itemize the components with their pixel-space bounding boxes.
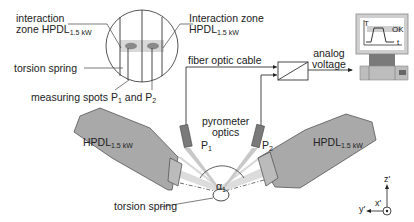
label-fiber-optic-cable: fiber optic cable — [188, 55, 262, 66]
label-pyrometer-optics: pyrometer optics — [202, 116, 249, 138]
label-angle-alpha: α1 — [216, 181, 226, 195]
magnified-inset — [106, 10, 178, 82]
subscript: 2 — [152, 97, 156, 104]
text: optics — [212, 126, 239, 138]
label-interaction-zone-left: interaction zone HPDL1.5 kW — [16, 13, 92, 38]
converter-box — [278, 62, 308, 80]
label-p1: P1 — [201, 140, 212, 154]
axis-x-label: x' — [375, 198, 381, 209]
subscript: 1.5 kW — [217, 29, 239, 36]
diagram-canvas: interaction zone HPDL1.5 kW Interaction … — [0, 0, 414, 222]
text: HPDL — [313, 136, 341, 148]
subscript: 2 — [269, 145, 273, 152]
text: zone HPDL — [16, 23, 70, 35]
label-interaction-zone-right: Interaction zone HPDL1.5 kW — [189, 13, 264, 38]
text: P — [201, 139, 208, 151]
subscript: 1 — [208, 145, 212, 152]
monitor-axis-T: T — [364, 18, 369, 29]
label-analog-voltage: analog voltage — [312, 48, 346, 70]
label-torsion-spring-bottom: torsion spring — [114, 201, 177, 212]
label-laser-right: HPDL1.5 kW — [313, 137, 363, 151]
monitor-ok-label: OK — [392, 24, 404, 35]
axis-y-label: y' — [359, 204, 365, 215]
monitor-axis-t: t — [397, 37, 399, 48]
text: HPDL — [83, 136, 111, 148]
label-torsion-spring-top: torsion spring — [14, 63, 77, 74]
axis-z-label: z' — [384, 174, 390, 185]
label-laser-left: HPDL1.5 kW — [83, 137, 133, 151]
label-measuring-spots: measuring spots P1 and P2 — [31, 92, 156, 106]
subscript: 1.5 kW — [111, 142, 133, 149]
laser-head-right — [258, 114, 376, 188]
text: voltage — [312, 58, 346, 70]
text: and P — [122, 91, 152, 103]
text: measuring spots P — [31, 91, 118, 103]
text: P — [262, 139, 269, 151]
subscript: 1.5 kW — [70, 29, 92, 36]
subscript: 1 — [222, 186, 226, 193]
text: HPDL — [189, 23, 217, 35]
subscript: 1.5 kW — [341, 142, 363, 149]
label-p2: P2 — [262, 140, 273, 154]
